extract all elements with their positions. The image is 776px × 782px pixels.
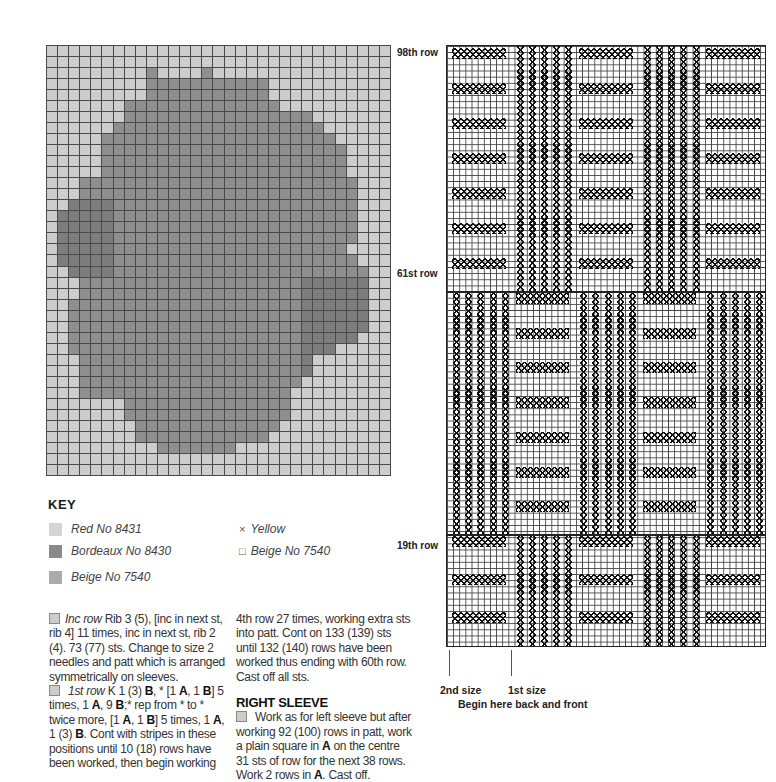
chart-cell (258, 399, 268, 409)
chart-cell (102, 90, 112, 100)
chart-cell (136, 333, 146, 343)
chart-cell (269, 421, 279, 431)
chart-cell (258, 189, 268, 199)
chart-cell (114, 388, 124, 398)
chart-cell (202, 112, 212, 122)
chart-cell (369, 222, 379, 232)
chart-cell (158, 255, 168, 265)
chart-cell (47, 156, 57, 166)
chart-cell (324, 189, 334, 199)
chart-cell (202, 300, 212, 310)
chart-cell (202, 278, 212, 288)
chart-cell (91, 200, 101, 210)
chart-cell (80, 222, 90, 232)
chart-cell (302, 399, 312, 409)
chart-cell (336, 46, 346, 56)
chart-cell (191, 200, 201, 210)
chart-cell (69, 454, 79, 464)
chart-cell (347, 134, 357, 144)
chart-cell (324, 101, 334, 111)
chart-cell (269, 222, 279, 232)
chart-cell (136, 388, 146, 398)
key-label: Beige No 7540 (251, 544, 330, 558)
chart-cell (236, 399, 246, 409)
chart-cell (336, 211, 346, 221)
chart-cell (358, 167, 368, 177)
chart-cell (225, 333, 235, 343)
chart-cell (269, 90, 279, 100)
chart-cell (158, 421, 168, 431)
chart-cell (180, 289, 190, 299)
chart-cell (258, 57, 268, 67)
chart-cell (69, 255, 79, 265)
chart-cell (102, 145, 112, 155)
chart-cell (347, 355, 357, 365)
chart-cell (136, 101, 146, 111)
chart-cell (91, 68, 101, 78)
chart-cell (369, 156, 379, 166)
chart-cell (47, 68, 57, 78)
chart-cell (324, 443, 334, 453)
chart-cell (291, 90, 301, 100)
chart-cell (336, 189, 346, 199)
chart-cell (202, 101, 212, 111)
chart-cell (247, 443, 257, 453)
chart-cell (313, 233, 323, 243)
chart-cell (102, 388, 112, 398)
chart-cell (369, 432, 379, 442)
chart-cell (247, 410, 257, 420)
chart-cell (158, 233, 168, 243)
chart-cell (114, 421, 124, 431)
chart-cell (47, 90, 57, 100)
chart-cell (247, 399, 257, 409)
chart-cell (369, 255, 379, 265)
chart-cell (147, 333, 157, 343)
chart-cell (247, 222, 257, 232)
chart-cell (180, 123, 190, 133)
chart-cell (258, 278, 268, 288)
chart-cell (369, 454, 379, 464)
chart-cell (358, 255, 368, 265)
first-row-paragraph: 1st row K 1 (3) B, * [1 A, 1 B] 5 times,… (49, 684, 229, 770)
chart-cell (280, 377, 290, 387)
chart-cell (358, 233, 368, 243)
chart-cell (58, 145, 68, 155)
chart-cell (136, 377, 146, 387)
chart-cell (313, 90, 323, 100)
chart-cell (180, 189, 190, 199)
chart-cell (180, 167, 190, 177)
chart-cell (191, 465, 201, 475)
chart-cell (136, 189, 146, 199)
chart-cell (336, 421, 346, 431)
chart-cell (236, 90, 246, 100)
chart-cell (324, 432, 334, 442)
chart-cell (369, 200, 379, 210)
chart-cell (125, 465, 135, 475)
chart-cell (47, 366, 57, 376)
row-label-19: 19th row (397, 540, 438, 551)
chart-cell (125, 46, 135, 56)
chart-cell (213, 278, 223, 288)
chart-cell (169, 90, 179, 100)
chart-cell (147, 410, 157, 420)
chart-cell (324, 145, 334, 155)
chart-cell (236, 421, 246, 431)
chart-cell (324, 454, 334, 464)
chart-cell (114, 255, 124, 265)
chart-cell (114, 200, 124, 210)
chart-cell (47, 443, 57, 453)
chart-cell (258, 167, 268, 177)
chart-cell (225, 267, 235, 277)
chart-cell (358, 134, 368, 144)
chart-cell (91, 101, 101, 111)
chart-cell (147, 388, 157, 398)
chart-cell (336, 278, 346, 288)
chart-cell (380, 145, 390, 155)
chart-cell (269, 399, 279, 409)
chart-cell (136, 68, 146, 78)
chart-cell (302, 57, 312, 67)
chart-cell (358, 289, 368, 299)
chart-cell (369, 134, 379, 144)
chart-cell (225, 300, 235, 310)
chart-cell (169, 388, 179, 398)
